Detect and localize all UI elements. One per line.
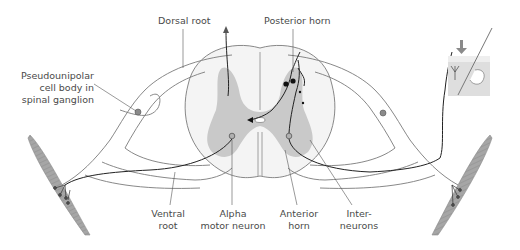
label-line: Anterior <box>276 208 322 220</box>
skin-receptor-inset <box>448 28 492 96</box>
left-alpha-motor-neuron <box>229 133 235 139</box>
label-interneurons: Inter- neurons <box>336 208 382 232</box>
label-pseudounipolar: Pseudounipolar cell body in spinal gangl… <box>18 70 94 106</box>
label-alpha-motor-neuron: Alpha motor neuron <box>200 208 266 232</box>
ascending-tract-arrow <box>223 26 229 33</box>
label-line: Pseudounipolar <box>18 70 94 82</box>
label-line: horn <box>276 220 322 232</box>
label-dorsal-root: Dorsal root <box>158 15 211 27</box>
label-line: neurons <box>336 220 382 232</box>
label-line: spinal ganglion <box>18 94 94 106</box>
right-muscle <box>432 135 492 235</box>
interneuron-dot <box>283 81 288 86</box>
interneuron-dot <box>290 78 295 83</box>
spinal-cord-cross-section <box>185 45 335 177</box>
right-alpha-motor-neuron <box>286 133 292 139</box>
interneuron-dot <box>299 91 301 93</box>
label-line: Alpha <box>200 208 266 220</box>
label-line: Ventral <box>146 208 190 220</box>
right-ganglion-cell-body <box>380 110 386 116</box>
left-muscle <box>28 135 90 235</box>
label-posterior-horn: Posterior horn <box>264 15 331 27</box>
label-anterior-horn: Anterior horn <box>276 208 322 232</box>
left-ganglion-cell-body <box>135 109 141 115</box>
interneuron-dot <box>302 102 304 104</box>
label-line: Inter- <box>336 208 382 220</box>
label-ventral-root: Ventral root <box>146 208 190 232</box>
stimulus-arrow <box>456 40 467 54</box>
label-line: root <box>146 220 190 232</box>
label-line: motor neuron <box>200 220 266 232</box>
label-line: cell body in <box>18 82 94 94</box>
